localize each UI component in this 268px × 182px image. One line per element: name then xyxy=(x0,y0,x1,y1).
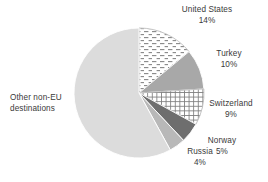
pie-chart-figure: United States 14% Turkey 10% Switzerland… xyxy=(0,0,268,182)
slice-label-percent: 14% xyxy=(168,16,246,27)
slice-label-turkey: Turkey 10% xyxy=(200,49,258,70)
slice-label-switzerland: Switzerland 9% xyxy=(196,99,266,120)
slice-label-name: Turkey xyxy=(200,49,258,60)
slice-label-percent: 4% xyxy=(177,158,223,169)
slice-label-russia: Russia 4% xyxy=(177,147,223,168)
slice-label-name: Russia xyxy=(177,147,223,158)
slice-label-name-line2: destinations xyxy=(10,104,92,115)
slice-label-name-line1: Other non-EU xyxy=(10,93,92,104)
slice-label-united-states: United States 14% xyxy=(168,5,246,26)
slice-label-other-non-eu-destinations: Other non-EU destinations xyxy=(10,93,92,114)
slice-label-name: United States xyxy=(168,5,246,16)
slice-label-percent: 9% xyxy=(196,110,266,121)
slice-label-percent: 10% xyxy=(200,60,258,71)
slice-label-name: Switzerland xyxy=(196,99,266,110)
slice-label-name: Norway xyxy=(196,136,248,147)
pie-slice-group xyxy=(74,28,204,158)
